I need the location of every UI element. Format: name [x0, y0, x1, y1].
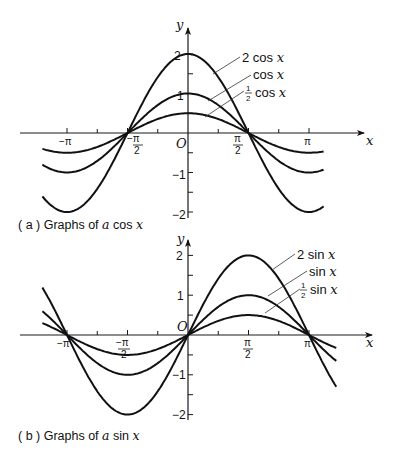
- legend-halfcos: 1 2 cos x: [245, 84, 287, 103]
- tick-label-half-pi: π 2: [233, 133, 243, 156]
- tick-label-neg-pi: −π: [57, 338, 70, 349]
- svg-text:2: 2: [246, 94, 251, 103]
- svg-text:sin x: sin x: [310, 282, 338, 297]
- y-tick-1: 1: [177, 289, 184, 303]
- origin-label: O: [177, 319, 188, 334]
- svg-text:2: 2: [245, 349, 251, 360]
- svg-text:2: 2: [235, 145, 241, 156]
- y-axis-label: y: [176, 231, 185, 246]
- legend-sin: sin x: [309, 264, 337, 279]
- tick-label-neg-pi: −π: [59, 136, 72, 147]
- caption-a: ( a ) Graphs of a cos x: [18, 217, 143, 232]
- chart-b: y x O −π π −π 2 π 2 2 1 −1 −2 2 sin x si…: [18, 231, 374, 443]
- y-tick-2: 2: [174, 49, 181, 63]
- svg-text:2: 2: [134, 145, 140, 156]
- y-tick-1: 1: [177, 89, 184, 103]
- tick-label-neg-half-pi: −π 2: [127, 133, 143, 156]
- leader-2sin: [272, 254, 295, 270]
- svg-text:π: π: [244, 337, 251, 348]
- y-axis-label: y: [175, 17, 184, 32]
- caption-b: ( b ) Graphs of a sin x: [18, 428, 140, 443]
- svg-text:cos x: cos x: [255, 85, 287, 100]
- x-axis-label: x: [366, 133, 374, 148]
- origin-label: O: [176, 136, 187, 151]
- y-tick-neg2: −2: [172, 208, 186, 222]
- tick-label-half-pi: π 2: [243, 337, 253, 360]
- svg-text:−π: −π: [127, 133, 140, 144]
- y-tick-neg1: −1: [172, 168, 186, 182]
- figure: y x O −π π −π 2 π 2 2 1 −1 −2 2 cos x co…: [0, 0, 394, 451]
- svg-text:−π: −π: [116, 337, 129, 348]
- legend-halfsin: 1 2 sin x: [300, 281, 338, 300]
- y-tick-neg2: −2: [172, 408, 186, 422]
- tick-label-neg-half-pi: −π 2: [116, 337, 130, 360]
- legend-2cos: 2 cos x: [242, 50, 285, 65]
- svg-text:2: 2: [301, 291, 306, 300]
- tick-label-pi: π: [304, 136, 311, 147]
- svg-text:2: 2: [121, 349, 127, 360]
- svg-text:π: π: [234, 133, 241, 144]
- y-tick-2: 2: [176, 249, 183, 263]
- y-tick-neg1: −1: [172, 368, 186, 382]
- legend-2sin: 2 sin x: [297, 247, 336, 262]
- x-axis-label: x: [366, 335, 374, 350]
- legend-cos: cos x: [253, 67, 285, 82]
- svg-text:1: 1: [246, 84, 251, 93]
- chart-a: y x O −π π −π 2 π 2 2 1 −1 −2 2 cos x co…: [18, 17, 374, 232]
- tick-label-pi: π: [304, 338, 311, 349]
- svg-text:1: 1: [301, 281, 306, 290]
- leader-2cos: [213, 57, 240, 74]
